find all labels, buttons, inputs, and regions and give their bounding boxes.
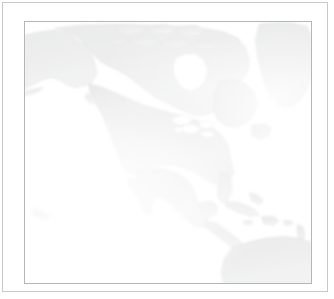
screenshot-root — [0, 0, 334, 299]
island-jamaica — [243, 220, 252, 224]
island-puerto-rico — [283, 220, 293, 225]
map-canvas[interactable] — [25, 22, 311, 283]
map-frame[interactable] — [24, 21, 312, 284]
outer-panel-border — [2, 2, 328, 292]
